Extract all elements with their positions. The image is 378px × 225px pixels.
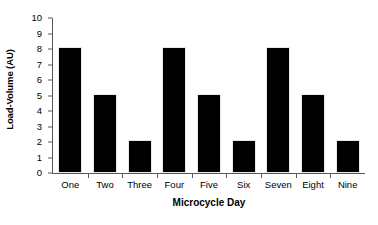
x-axis-tick-mark <box>226 174 227 178</box>
bar-slot <box>192 18 227 173</box>
x-axis-tick-mark <box>296 174 297 178</box>
bar-chart: Load-Volume (AU) 012345678910 OneTwoThre… <box>0 0 378 225</box>
bar-slot <box>226 18 261 173</box>
bar[interactable] <box>93 94 117 174</box>
y-axis-tick-label: 3 <box>20 122 42 132</box>
x-axis-tick-mark <box>88 174 89 178</box>
x-axis-tick-labels: OneTwoThreeFourFiveSixSevenEightNine <box>53 179 365 193</box>
bar-slot <box>122 18 157 173</box>
y-axis-tick-mark <box>48 126 52 127</box>
y-axis-tick-mark <box>48 157 52 158</box>
y-axis-tick-label: 7 <box>20 60 42 70</box>
bar-slot <box>261 18 296 173</box>
y-axis-title-label: Load-Volume (AU) <box>4 49 15 130</box>
bar[interactable] <box>162 47 186 173</box>
x-axis-tick-label: Five <box>200 179 218 191</box>
y-axis-tick-label: 1 <box>20 153 42 163</box>
bar-slot <box>157 18 192 173</box>
bar[interactable] <box>336 140 360 173</box>
y-axis-tick-mark <box>48 33 52 34</box>
y-axis-title: Load-Volume (AU) <box>0 0 18 178</box>
y-axis-tick-mark <box>48 80 52 81</box>
y-axis-tick-mark <box>48 49 52 50</box>
y-axis-tick-mark <box>48 95 52 96</box>
bar[interactable] <box>197 94 221 174</box>
bar-slot <box>330 18 365 173</box>
x-axis-tick-mark <box>261 174 262 178</box>
x-axis-tick-label: Two <box>96 179 113 191</box>
x-axis-tick-label: Seven <box>265 179 292 191</box>
y-axis-tick-label: 0 <box>20 168 42 178</box>
bar-slot <box>88 18 123 173</box>
x-axis-tick-label: Nine <box>338 179 358 191</box>
y-axis-tick-label: 2 <box>20 137 42 147</box>
x-axis-tick-mark <box>122 174 123 178</box>
x-axis-tick-mark <box>157 174 158 178</box>
x-axis-tick-label: Three <box>127 179 152 191</box>
y-axis-tick-mark <box>48 64 52 65</box>
bar[interactable] <box>128 140 152 173</box>
x-axis-tick-label: Eight <box>302 179 324 191</box>
bar[interactable] <box>266 47 290 173</box>
y-axis-tick-mark <box>48 142 52 143</box>
bar-slot <box>296 18 331 173</box>
plot-area <box>53 18 365 173</box>
bar[interactable] <box>301 94 325 174</box>
y-axis-tick-label: 6 <box>20 75 42 85</box>
x-axis-tick-label: One <box>61 179 79 191</box>
y-axis-tick-label: 5 <box>20 91 42 101</box>
x-axis-tick-mark <box>330 174 331 178</box>
x-axis-tick-mark <box>192 174 193 178</box>
y-axis-tick-mark <box>48 18 52 19</box>
x-axis-tick-label: Four <box>165 179 185 191</box>
x-axis-tick-label: Six <box>237 179 250 191</box>
y-axis-tick-label: 4 <box>20 106 42 116</box>
y-axis-tick-mark <box>48 111 52 112</box>
y-axis-tick-label: 10 <box>20 13 42 23</box>
y-axis-tick-label: 8 <box>20 44 42 54</box>
bar[interactable] <box>232 140 256 173</box>
bar-slot <box>53 18 88 173</box>
bar[interactable] <box>58 47 82 173</box>
y-axis-tick-mark <box>48 173 52 174</box>
y-axis-tick-label: 9 <box>20 29 42 39</box>
x-axis-line <box>52 173 365 174</box>
y-axis-tick-labels: 012345678910 <box>20 18 42 173</box>
x-axis-title: Microcycle Day <box>53 197 365 208</box>
